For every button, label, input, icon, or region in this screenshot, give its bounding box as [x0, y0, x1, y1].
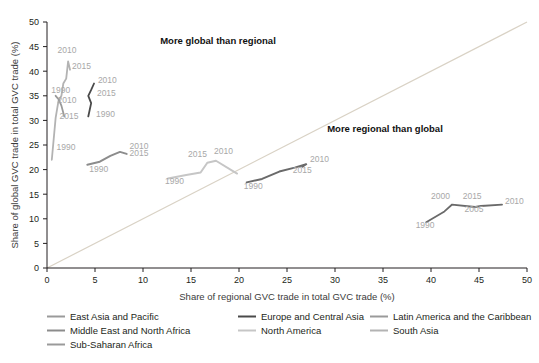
- year-point-label: 2010: [58, 45, 77, 55]
- quadrant-annotation: More regional than global: [327, 123, 443, 134]
- legend-item-label: South Asia: [393, 325, 439, 336]
- year-point-label: 1990: [89, 164, 108, 174]
- year-point-label: 2010: [505, 196, 524, 206]
- year-point-label: 2015: [293, 165, 312, 175]
- x-axis-tick-label: 15: [186, 275, 196, 285]
- y-axis-tick-label: 15: [29, 190, 39, 200]
- year-point-label: 2010: [58, 95, 77, 105]
- y-axis-title: Share of global GVC trade in total GVC t…: [9, 42, 20, 249]
- figure-container: 0510152025303540455005101520253035404550…: [0, 0, 539, 363]
- year-point-label: 1990: [51, 85, 70, 95]
- year-point-label: 2015: [463, 191, 482, 201]
- gvc-trade-scatter-chart: 0510152025303540455005101520253035404550…: [0, 0, 539, 363]
- legend-item-label: East Asia and Pacific: [70, 311, 159, 322]
- legend-item-label: Europe and Central Asia: [261, 311, 365, 322]
- quadrant-annotation: More global than regional: [160, 35, 276, 46]
- x-axis-title: Share of regional GVC trade in total GVC…: [179, 291, 394, 302]
- x-axis-tick-label: 50: [522, 275, 532, 285]
- x-axis-tick-label: 10: [138, 275, 148, 285]
- x-axis-tick-label: 30: [330, 275, 340, 285]
- year-point-label: 2010: [98, 75, 117, 85]
- year-point-label: 2005: [465, 204, 484, 214]
- year-point-label: 2000: [431, 191, 450, 201]
- year-point-label: 2015: [59, 111, 78, 121]
- y-axis-tick-label: 10: [29, 214, 39, 224]
- x-axis-tick-label: 0: [44, 275, 49, 285]
- y-axis-tick-label: 5: [34, 239, 39, 249]
- year-point-label: 2015: [97, 88, 116, 98]
- year-point-label: 2010: [310, 154, 329, 164]
- series-line-europe-and-central-asia: [88, 84, 94, 117]
- legend-item-label: Middle East and North Africa: [70, 325, 191, 336]
- x-axis-tick-label: 45: [474, 275, 484, 285]
- x-axis-tick-label: 20: [234, 275, 244, 285]
- y-axis-tick-label: 0: [34, 263, 39, 273]
- x-axis-tick-label: 40: [426, 275, 436, 285]
- diagonal-reference-line: [47, 22, 527, 268]
- y-axis-tick-label: 40: [29, 67, 39, 77]
- legend-item-label: North America: [261, 325, 322, 336]
- year-point-label: 1990: [416, 220, 435, 230]
- year-point-label: 1990: [96, 109, 115, 119]
- year-point-label: 2015: [188, 149, 207, 159]
- y-axis-tick-label: 20: [29, 165, 39, 175]
- year-point-label: 2015: [72, 61, 91, 71]
- year-point-label: 2015: [130, 148, 149, 158]
- year-point-label: 1990: [57, 142, 76, 152]
- y-axis-tick-label: 45: [29, 42, 39, 52]
- year-point-label: 1990: [165, 176, 184, 186]
- year-point-label: 1990: [244, 181, 263, 191]
- y-axis-tick-label: 25: [29, 140, 39, 150]
- y-axis-tick-label: 30: [29, 116, 39, 126]
- legend-item-label: Sub-Saharan Africa: [70, 339, 153, 350]
- legend-item-label: Latin America and the Caribbean: [393, 311, 531, 322]
- y-axis-tick-label: 50: [29, 17, 39, 27]
- y-axis-tick-label: 35: [29, 91, 39, 101]
- x-axis-tick-label: 35: [378, 275, 388, 285]
- x-axis-tick-label: 5: [92, 275, 97, 285]
- x-axis-tick-label: 25: [282, 275, 292, 285]
- year-point-label: 2010: [214, 146, 233, 156]
